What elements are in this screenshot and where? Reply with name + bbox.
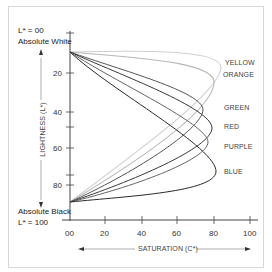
- x-tick-60: 60: [172, 229, 181, 238]
- y-tick-40: 40: [53, 108, 62, 117]
- series-label-orange: ORANGE: [223, 71, 254, 78]
- bottom-annotation: Absolute Black L* = 100: [18, 206, 71, 228]
- x-tick-0: 00: [65, 229, 74, 238]
- y-tick-80: 80: [53, 181, 62, 190]
- curve-purple: [70, 52, 208, 202]
- top-annotation: L* = 00 Absolute White: [18, 25, 72, 47]
- curve-red: [70, 52, 212, 202]
- y-tick-20: 20: [53, 69, 62, 78]
- series-label-yellow: YELLOW: [225, 59, 255, 66]
- curve-blue: [70, 52, 216, 202]
- y-axis-title: LIGHTNESS (L*): [39, 100, 46, 160]
- x-tick-40: 40: [137, 229, 146, 238]
- series-label-blue: BLUE: [224, 168, 243, 175]
- x-tick-100: 100: [243, 229, 256, 238]
- bottom-l-value: L* = 100: [18, 217, 71, 228]
- curve-green: [70, 52, 203, 202]
- series-label-red: RED: [224, 123, 239, 130]
- series-label-green: GREEN: [224, 104, 249, 111]
- x-tick-80: 80: [209, 229, 218, 238]
- absolute-white-label: Absolute White: [18, 36, 72, 47]
- top-l-value: L* = 00: [18, 25, 72, 36]
- x-axis-title: SATURATION (C*): [138, 245, 198, 252]
- absolute-black-label: Absolute Black: [18, 206, 71, 217]
- y-tick-60: 60: [53, 144, 62, 153]
- x-tick-20: 20: [100, 229, 109, 238]
- series-label-purple: PURPLE: [224, 143, 253, 150]
